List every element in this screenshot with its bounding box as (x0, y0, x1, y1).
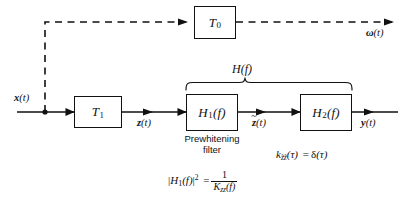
block-T0-sub: 0 (217, 20, 222, 30)
block-H2: H2(f) (300, 94, 352, 131)
formula-k-delta-arg: (τ) (316, 148, 327, 160)
arrowhead-y (364, 109, 374, 116)
brace-label-H: H(f) (232, 62, 252, 77)
block-H1-arg: (f) (213, 105, 226, 120)
block-H2-arg: (f) (327, 105, 340, 120)
arrowhead-z (143, 109, 153, 116)
formula-h1-fraction: 1Kzz(f) (211, 170, 237, 193)
formula-k-arg: (τ) (287, 148, 298, 160)
signal-label-z: z(t) (137, 117, 151, 128)
prewhitening-line-1: Prewhitening (185, 133, 240, 144)
arrowhead-T0-in (178, 19, 188, 26)
formula-h1-exponent: 2 (195, 173, 199, 182)
block-T0-label: T0 (209, 15, 222, 31)
formula-h1-den-arg: (f) (226, 181, 235, 192)
block-H2-label: H2(f) (312, 105, 340, 121)
block-H2-base: H (312, 105, 322, 120)
formula-h1-numerator: 1 (211, 170, 237, 181)
signal-omega-base: ω (366, 27, 374, 38)
block-T0-base: T (209, 15, 216, 30)
signal-ztilde-arg: (t) (256, 117, 266, 128)
tilde-accent-icon: ~ (251, 110, 256, 121)
brace-label-H-arg: (f) (241, 62, 252, 76)
prewhitening-line-2: filter (203, 144, 221, 155)
signal-ztilde-base: ~z (252, 117, 256, 128)
signal-label-y: y(t) (361, 117, 376, 128)
formula-k-equals: = (303, 148, 309, 160)
signal-label-omega: ω(t) (366, 27, 384, 38)
block-T1: T1 (74, 96, 122, 128)
block-T1-sub: 1 (100, 110, 105, 120)
brace-label-H-base: H (232, 62, 241, 76)
signal-y-arg: (t) (366, 117, 376, 128)
block-H1-base: H (198, 105, 208, 120)
signal-omega-arg: (t) (374, 27, 384, 38)
arrowhead-omega (384, 19, 394, 26)
formula-h1-magnitude: |H1(f)|2 =1Kzz(f) (168, 170, 237, 193)
arrowhead-ztilde (256, 109, 266, 116)
block-T1-label: T1 (92, 104, 105, 120)
brace-H (186, 79, 352, 91)
block-H1: H1(f) (186, 94, 238, 131)
prewhitening-filter-caption: Prewhitening filter (172, 134, 252, 155)
signal-x-arg: (t) (19, 92, 29, 103)
block-T0: T0 (194, 6, 236, 39)
block-diagram: T0 T1 H1(f) H2(f) x(t) ω(t) z(t) ~z(t) y… (0, 0, 406, 202)
formula-h1-denominator: Kzz(f) (211, 182, 237, 194)
formula-h1-arg: (f) (182, 174, 192, 186)
block-H1-label: H1(f) (198, 105, 226, 121)
signal-label-x: x(t) (14, 92, 29, 103)
signal-z-arg: (t) (141, 117, 151, 128)
formula-h1-equals: = (203, 174, 209, 186)
signal-label-z-tilde: ~z(t) (252, 117, 266, 128)
formula-correlation-ztilde: kz̃z̃(τ) =δ(τ) (276, 148, 327, 162)
block-T1-base: T (92, 104, 99, 119)
formula-h1-base: H (170, 174, 178, 186)
